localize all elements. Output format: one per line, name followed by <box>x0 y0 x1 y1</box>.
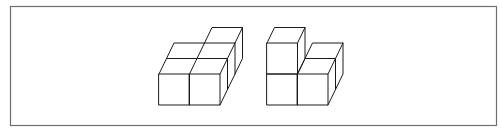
right-top-short-front <box>298 59 336 75</box>
right-top-tall-column <box>267 28 305 44</box>
right-front-face-bottom-left <box>267 74 298 105</box>
figure-left <box>159 28 243 106</box>
left-top-front-row <box>159 59 197 75</box>
left-front-face-1 <box>159 74 190 105</box>
figure-right <box>267 28 343 106</box>
right-front-face-bottom-right <box>298 74 329 105</box>
left-top-back-cube <box>205 28 243 44</box>
left-top-middle-row <box>167 43 205 59</box>
diagram-canvas <box>0 0 502 136</box>
left-front-face-2 <box>190 74 221 105</box>
diagram-frame <box>11 7 497 126</box>
right-top-short-back <box>305 43 343 59</box>
left-top-middle-row-2 <box>205 43 236 59</box>
left-top-front-row-2 <box>197 59 228 75</box>
right-front-face-top <box>267 43 298 74</box>
